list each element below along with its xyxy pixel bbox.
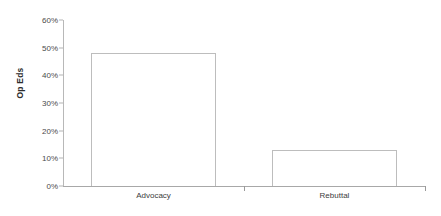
x-axis-tick-mark <box>425 186 426 191</box>
y-axis-tick-label: 10% <box>0 154 58 163</box>
y-axis-tick-label: 60% <box>0 16 58 25</box>
bar <box>272 150 397 186</box>
x-axis-category-label: Advocacy <box>63 191 244 200</box>
y-axis-tick-label: 0% <box>0 182 58 191</box>
y-axis-tick-label: 50% <box>0 43 58 52</box>
bar <box>91 53 216 186</box>
y-axis-tick-label: 20% <box>0 126 58 135</box>
y-axis-line <box>63 20 64 187</box>
y-axis-tick-label: 40% <box>0 71 58 80</box>
x-axis-category-label: Rebuttal <box>244 191 425 200</box>
y-axis-tick-label: 30% <box>0 99 58 108</box>
bar-chart: Op Eds 0%10%20%30%40%50%60% AdvocacyRebu… <box>0 0 441 216</box>
